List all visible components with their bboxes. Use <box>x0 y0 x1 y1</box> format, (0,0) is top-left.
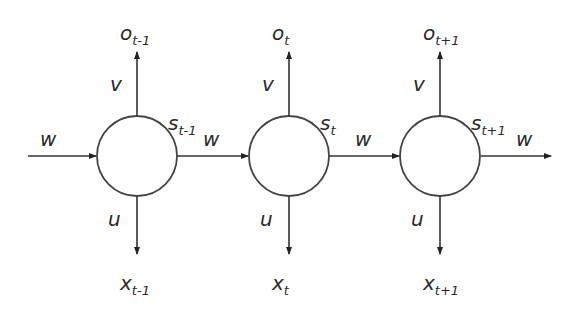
output-label-main: o <box>120 21 132 45</box>
output-weight-label: v <box>413 72 426 96</box>
input-label-main: x <box>422 271 435 295</box>
output-label-subscript: t-1 <box>132 33 150 48</box>
output-recurrent-weight-label: w <box>516 127 533 151</box>
state-label-main: s <box>168 111 178 135</box>
output-label: ot+1 <box>423 21 460 48</box>
input-weight-label: u <box>411 207 424 231</box>
state-label-main: s <box>320 111 330 135</box>
input-label: xt <box>271 271 290 298</box>
input-weight-label-main: u <box>411 207 424 231</box>
state-label-subscript: t+1 <box>481 123 505 138</box>
output-label-main: o <box>423 21 435 45</box>
recurrent-weight-label: w <box>203 127 220 151</box>
state-label-main: s <box>471 111 481 135</box>
state-label: st-1 <box>168 111 196 138</box>
rnn-diagram: w wot-1vst-1uxt-1wotvstuxtot+1vst+1uxt+1… <box>0 0 574 313</box>
recurrent-weight-label: w <box>355 127 372 151</box>
recurrent-weight-label-main: w <box>355 127 372 151</box>
input-label-subscript: t+1 <box>435 283 459 298</box>
output-weight-label: v <box>110 72 123 96</box>
rnn-cell-node <box>400 116 480 196</box>
input-recurrent-weight-label: w <box>40 127 57 151</box>
output-label: ot <box>272 21 290 48</box>
input-weight-label-main: u <box>108 207 121 231</box>
state-label-subscript: t-1 <box>178 123 196 138</box>
rnn-cell-node <box>249 116 329 196</box>
state-label-subscript: t <box>330 123 336 138</box>
input-label-main: x <box>271 271 284 295</box>
input-weight-label: u <box>108 207 121 231</box>
output-label: ot-1 <box>120 21 150 48</box>
input-weight-label: u <box>260 207 273 231</box>
state-label: st+1 <box>471 111 506 138</box>
input-label: xt+1 <box>422 271 459 298</box>
output-weight-label-main: v <box>262 72 275 96</box>
output-weight-label-main: v <box>110 72 123 96</box>
output-weight-label: v <box>262 72 275 96</box>
output-label-main: o <box>272 21 284 45</box>
input-label-subscript: t-1 <box>132 283 150 298</box>
input-weight-label-main: u <box>260 207 273 231</box>
input-label-subscript: t <box>284 283 290 298</box>
input-label: xt-1 <box>119 271 150 298</box>
rnn-cell-node <box>97 116 177 196</box>
output-weight-label-main: v <box>413 72 426 96</box>
output-label-subscript: t <box>284 33 290 48</box>
output-label-subscript: t+1 <box>435 33 459 48</box>
input-label-main: x <box>119 271 132 295</box>
state-label: st <box>320 111 336 138</box>
recurrent-weight-label-main: w <box>203 127 220 151</box>
